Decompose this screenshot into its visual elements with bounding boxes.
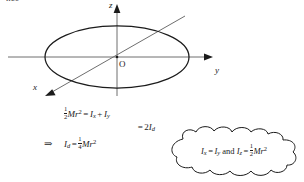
origin-label: O [119, 60, 126, 69]
equation-expression: =2Id [64, 121, 169, 135]
equation-row: =2Id [44, 121, 169, 136]
axis-label-x: x [33, 83, 37, 92]
figure-root: nce z y x O 12Mr2=Ix+Iy [0, 0, 304, 182]
equation-row: 12Mr2=Ix+Iy [44, 106, 169, 121]
axis-z [114, 4, 121, 96]
cloud-equation-text: Ix=Iy and Iz=12Mr2 [166, 143, 302, 157]
axis-x [45, 16, 185, 96]
axis-label-z: z [109, 1, 113, 10]
equation-row: ⇒ Id=14Mr2 [44, 136, 169, 151]
equation-lead-symbol: ⇒ [44, 136, 64, 152]
axis-y [8, 54, 213, 61]
derivation-block: 12Mr2=Ix+Iy =2Id ⇒ Id=14Mr2 [44, 106, 169, 151]
axis-label-y: y [215, 66, 219, 75]
equation-expression: Id=14Mr2 [64, 136, 169, 152]
thought-cloud-callout: Ix=Iy and Iz=12Mr2 [166, 126, 302, 180]
equation-expression: 12Mr2=Ix+Iy [64, 106, 169, 122]
origin-point [116, 56, 119, 59]
